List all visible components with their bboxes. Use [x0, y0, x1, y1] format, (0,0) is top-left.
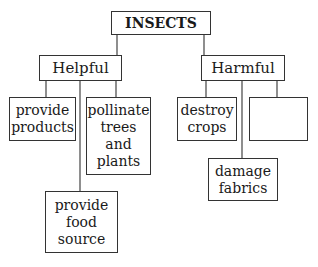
insects-concept-map: INSECTS Helpful Harmful provide products…: [0, 0, 318, 267]
provide-products-label: provide products: [11, 102, 74, 136]
pollinate-label: pollinate trees and plants: [87, 102, 149, 170]
node-provide-products: provide products: [9, 97, 76, 141]
damage-fabrics-label: damage fabrics: [215, 163, 271, 197]
harmful-label: Harmful: [211, 60, 274, 77]
node-provide-food-source: provide food source: [45, 191, 118, 253]
node-empty: [249, 97, 308, 141]
destroy-crops-label: destroy crops: [180, 102, 233, 136]
helpful-label: Helpful: [52, 60, 108, 77]
provide-food-source-label: provide food source: [55, 197, 109, 248]
node-destroy-crops: destroy crops: [177, 97, 237, 141]
root-label: INSECTS: [125, 15, 197, 32]
node-harmful: Harmful: [201, 55, 285, 81]
node-helpful: Helpful: [39, 55, 122, 81]
node-pollinate: pollinate trees and plants: [86, 97, 151, 175]
node-damage-fabrics: damage fabrics: [208, 158, 278, 201]
root-node-insects: INSECTS: [111, 11, 211, 35]
